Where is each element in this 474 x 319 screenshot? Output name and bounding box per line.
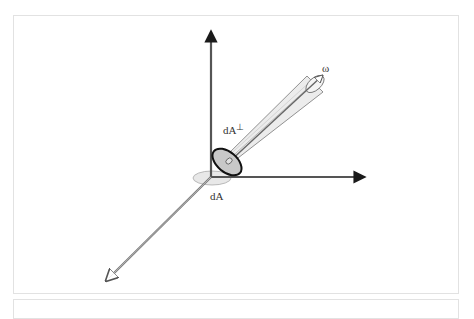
solid-angle-cone [223, 72, 327, 165]
omega-label: ω [322, 62, 329, 74]
depth-axis-highlight [109, 177, 211, 278]
dA-perp-text: dA [223, 124, 237, 136]
perp-superscript: ⊥ [236, 122, 244, 132]
dA-label: dA [210, 190, 224, 202]
dA-perp-label: dA⊥ [223, 122, 244, 136]
